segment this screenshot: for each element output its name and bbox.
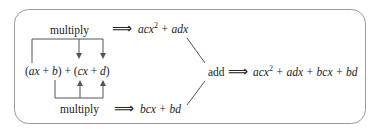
converging-lines xyxy=(187,38,205,105)
bottom-implies-arrow: ⟹ xyxy=(114,101,134,116)
top-bracket xyxy=(32,39,103,63)
binomial-expression: (ax + b) + (cx + d) xyxy=(25,65,110,78)
top-multiply-label: multiply xyxy=(50,24,89,37)
add-label: add xyxy=(208,66,225,78)
final-result: acx2 + adx + bcx + bd xyxy=(253,64,358,78)
top-implies-arrow: ⟹ xyxy=(112,21,132,36)
top-result: acx2 + adx xyxy=(138,21,189,35)
final-implies-arrow: ⟹ xyxy=(228,64,248,79)
bottom-result: bcx + bd xyxy=(140,103,181,115)
bottom-bracket xyxy=(55,80,103,98)
foil-diagram: multiply (ax + b) + (cx + d) multiply ⟹ … xyxy=(0,0,381,129)
bottom-multiply-label: multiply xyxy=(60,103,99,116)
